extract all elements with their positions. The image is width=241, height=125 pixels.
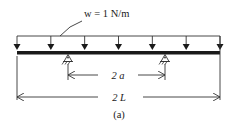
- load-arrows: [14, 36, 224, 50]
- left-support: [62, 55, 73, 65]
- load-arrow: [81, 36, 88, 50]
- load-arrow: [14, 36, 21, 50]
- beam: [17, 51, 220, 55]
- inner-span-label: 2 a: [111, 70, 124, 81]
- beam-diagram: w = 1 N/m 2 a 2 L (a): [0, 0, 241, 125]
- load-arrow: [149, 36, 156, 50]
- load-arrow: [115, 36, 122, 50]
- figure-caption: (a): [113, 109, 125, 121]
- load-label: w = 1 N/m: [84, 8, 129, 19]
- load-arrow: [47, 36, 54, 50]
- load-arrow: [183, 36, 190, 50]
- total-span-label: 2 L: [112, 92, 126, 103]
- right-support: [159, 55, 170, 65]
- load-leader-line: [60, 21, 82, 36]
